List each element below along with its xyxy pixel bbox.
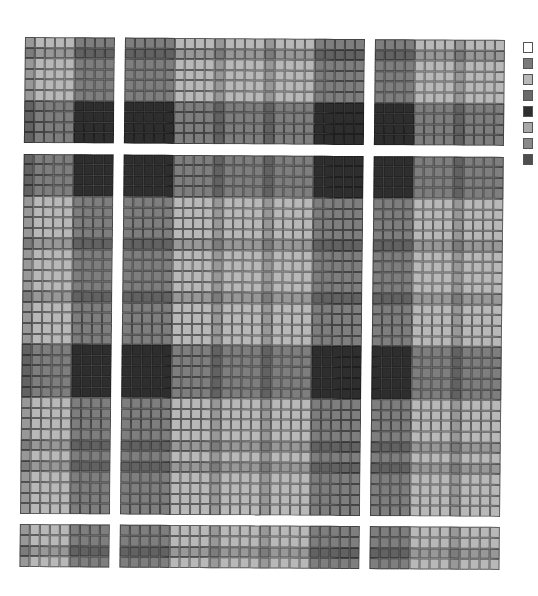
heatmap-cell	[81, 419, 91, 430]
heatmap-cell	[21, 450, 31, 461]
heatmap-cell	[72, 302, 82, 313]
heatmap-cell	[74, 164, 84, 175]
heatmap-cell	[400, 484, 410, 495]
heatmap-cell	[392, 357, 402, 368]
heatmap-cell	[241, 377, 251, 388]
heatmap-cell	[334, 92, 344, 103]
heatmap-cell	[410, 484, 420, 495]
heatmap-cell	[220, 536, 230, 547]
heatmap-cell	[61, 440, 71, 451]
heatmap-cell	[483, 262, 493, 273]
heatmap-cell	[443, 262, 453, 273]
heatmap-cell	[231, 367, 241, 378]
heatmap-cell	[210, 494, 220, 505]
heatmap-cell	[204, 144, 214, 155]
heatmap-cell	[424, 114, 434, 125]
heatmap-cell	[340, 494, 350, 505]
heatmap-cell	[140, 483, 150, 494]
heatmap-cell	[461, 410, 471, 421]
heatmap-cell	[122, 313, 132, 324]
heatmap-cell	[84, 90, 94, 101]
heatmap-cell	[163, 218, 173, 229]
heatmap-cell	[124, 165, 134, 176]
heatmap-cell	[285, 39, 295, 50]
heatmap-cell	[440, 516, 450, 527]
heatmap-cell	[302, 346, 312, 357]
heatmap-cell	[224, 112, 234, 123]
heatmap-cell	[244, 112, 254, 123]
heatmap-cell	[182, 271, 192, 282]
heatmap-cell	[183, 197, 193, 208]
heatmap-cell	[365, 39, 375, 50]
heatmap-cell	[351, 410, 361, 421]
heatmap-cell	[94, 165, 104, 176]
heatmap-cell	[492, 305, 502, 316]
heatmap-cell	[410, 516, 420, 527]
heatmap-cell	[165, 70, 175, 81]
heatmap-cell	[73, 249, 83, 260]
heatmap-cell	[34, 122, 44, 133]
heatmap-cell	[281, 378, 291, 389]
heatmap-cell	[64, 80, 74, 91]
heatmap-cell	[382, 336, 392, 347]
heatmap-cell	[492, 336, 502, 347]
heatmap-cell	[252, 346, 262, 357]
heatmap-cell	[440, 548, 450, 559]
heatmap-cell	[60, 493, 70, 504]
heatmap-cell	[271, 388, 281, 399]
heatmap-cell	[242, 356, 252, 367]
heatmap-cell	[114, 154, 124, 165]
heatmap-cell	[470, 516, 480, 527]
heatmap-cell	[81, 429, 91, 440]
heatmap-cell	[231, 441, 241, 452]
heatmap-cell	[63, 249, 73, 260]
heatmap-cell	[383, 198, 393, 209]
heatmap-cell	[43, 228, 53, 239]
heatmap-cell	[201, 430, 211, 441]
heatmap-cell	[243, 250, 253, 261]
heatmap-cell	[465, 61, 475, 72]
heatmap-cell	[410, 495, 420, 506]
heatmap-cell	[411, 431, 421, 442]
heatmap-cell	[273, 240, 283, 251]
heatmap-cell	[190, 525, 200, 536]
heatmap-cell	[315, 71, 325, 82]
heatmap-cell	[51, 408, 61, 419]
heatmap-cell	[310, 505, 320, 516]
heatmap-cell	[300, 526, 310, 537]
heatmap-cell	[202, 292, 212, 303]
heatmap-cell	[312, 293, 322, 304]
heatmap-cell	[163, 260, 173, 271]
heatmap-cell	[112, 324, 122, 335]
heatmap-cell	[31, 440, 41, 451]
heatmap-cell	[451, 410, 461, 421]
heatmap-cell	[314, 166, 324, 177]
heatmap-cell	[24, 143, 34, 154]
heatmap-cell	[31, 365, 41, 376]
heatmap-cell	[383, 230, 393, 241]
heatmap-cell	[130, 514, 140, 525]
heatmap-cell	[354, 124, 364, 135]
heatmap-cell	[412, 325, 422, 336]
heatmap-cell	[421, 389, 431, 400]
heatmap-cell	[33, 207, 43, 218]
heatmap-cell	[441, 453, 451, 464]
heatmap-cell	[145, 59, 155, 70]
heatmap-cell	[231, 398, 241, 409]
heatmap-cell	[90, 514, 100, 525]
heatmap-cell	[341, 378, 351, 389]
heatmap-cell	[242, 335, 252, 346]
heatmap-cell	[460, 538, 470, 549]
heatmap-cell	[193, 208, 203, 219]
heatmap-cell	[161, 366, 171, 377]
heatmap-cell	[120, 546, 130, 557]
heatmap-cell	[273, 197, 283, 208]
heatmap-cell	[463, 177, 473, 188]
heatmap-cell	[472, 273, 482, 284]
heatmap-cell	[114, 122, 124, 133]
heatmap-cell	[73, 196, 83, 207]
heatmap-cell	[122, 302, 132, 313]
heatmap-cell	[175, 38, 185, 49]
heatmap-cell	[341, 452, 351, 463]
heatmap-cell	[330, 537, 340, 548]
